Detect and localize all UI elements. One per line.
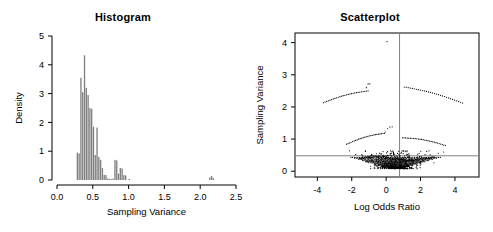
scatter-point bbox=[381, 162, 382, 163]
scatter-point bbox=[391, 155, 392, 156]
scatter-point bbox=[448, 97, 449, 98]
scatter-point bbox=[434, 156, 435, 157]
scatter-point bbox=[362, 157, 363, 158]
scatter-point bbox=[405, 161, 406, 162]
scatter-point bbox=[392, 162, 393, 163]
scatter-point bbox=[382, 161, 383, 162]
scatter-point bbox=[391, 160, 392, 161]
scatter-point bbox=[401, 167, 402, 168]
scatter-point bbox=[416, 162, 417, 163]
scatter-point bbox=[416, 89, 417, 90]
histogram-bar bbox=[125, 175, 126, 180]
x-tick-label: 0.5 bbox=[87, 192, 100, 202]
scatter-point bbox=[446, 97, 447, 98]
scatter-point bbox=[414, 158, 415, 159]
scatter-point bbox=[408, 162, 409, 163]
scatter-point bbox=[379, 153, 380, 154]
scatter-point bbox=[420, 161, 421, 162]
scatter-point bbox=[380, 162, 381, 163]
scatter-point bbox=[368, 161, 369, 162]
scatter-point bbox=[384, 156, 385, 157]
scatter-point bbox=[387, 151, 388, 152]
scatter-point bbox=[382, 160, 383, 161]
scatter-point bbox=[388, 162, 389, 163]
scatter-point bbox=[363, 158, 364, 159]
scatter-point bbox=[396, 160, 397, 161]
scatter-point bbox=[364, 160, 365, 161]
x-axis-title: Log Odds Ratio bbox=[354, 201, 420, 212]
scatter-point bbox=[417, 165, 418, 166]
histogram-bar bbox=[102, 168, 103, 180]
scatter-point bbox=[421, 161, 422, 162]
scatter-point bbox=[398, 151, 399, 152]
scatter-point bbox=[378, 160, 379, 161]
histogram-y-axis: 012345 bbox=[39, 31, 52, 185]
scatter-point bbox=[344, 95, 345, 96]
scatter-point bbox=[380, 168, 381, 169]
scatter-point bbox=[371, 159, 372, 160]
scatter-point bbox=[402, 150, 403, 151]
scatter-point bbox=[409, 157, 410, 158]
scatter-point bbox=[379, 161, 380, 162]
scatter-point bbox=[377, 162, 378, 163]
scatter-point bbox=[431, 159, 432, 160]
scatter-point bbox=[419, 157, 420, 158]
scatter-point bbox=[390, 155, 391, 156]
scatter-point bbox=[361, 157, 362, 158]
scatter-point bbox=[373, 158, 374, 159]
scatter-point bbox=[404, 155, 405, 156]
scatter-point bbox=[417, 163, 418, 164]
scatter-point bbox=[323, 102, 324, 103]
scatter-point bbox=[462, 102, 463, 103]
scatter-point bbox=[442, 95, 443, 96]
scatter-point bbox=[403, 150, 404, 151]
histogram-panel: Histogram 0123450.00.51.01.52.02.5Sampli… bbox=[0, 0, 246, 232]
y-axis-title: Density bbox=[13, 92, 24, 124]
scatter-point bbox=[380, 160, 381, 161]
histogram-bar bbox=[105, 175, 106, 180]
scatter-point bbox=[411, 162, 412, 163]
scatter-point bbox=[346, 94, 347, 95]
scatter-point bbox=[366, 87, 367, 88]
scatter-point bbox=[369, 135, 370, 136]
scatter-point bbox=[324, 101, 325, 102]
scatter-point bbox=[393, 157, 394, 158]
scatter-point bbox=[402, 137, 403, 138]
scatter-point bbox=[361, 154, 362, 155]
scatter-point bbox=[424, 159, 425, 160]
scatter-point bbox=[385, 160, 386, 161]
scatter-point bbox=[371, 160, 372, 161]
scatter-point bbox=[329, 100, 330, 101]
scatter-point bbox=[367, 90, 368, 91]
scatter-point bbox=[363, 137, 364, 138]
scatter-point bbox=[385, 155, 386, 156]
scatter-point bbox=[387, 128, 388, 129]
histogram-bar bbox=[121, 168, 122, 180]
histogram-bar bbox=[95, 155, 96, 180]
scatter-point bbox=[370, 161, 371, 162]
scatter-point bbox=[352, 157, 353, 158]
y-tick-label: 3 bbox=[282, 70, 287, 80]
scatterplot-y-axis: 01234 bbox=[282, 38, 295, 177]
scatter-point bbox=[387, 162, 388, 163]
scatter-point bbox=[366, 90, 367, 91]
scatter-point bbox=[434, 158, 435, 159]
scatter-point bbox=[364, 159, 365, 160]
scatter-point bbox=[411, 168, 412, 169]
scatter-point bbox=[375, 162, 376, 163]
scatter-point bbox=[411, 157, 412, 158]
scatter-point bbox=[404, 86, 405, 87]
scatter-point bbox=[354, 92, 355, 93]
scatter-point bbox=[374, 161, 375, 162]
scatter-point bbox=[347, 143, 348, 144]
scatter-point bbox=[370, 168, 371, 169]
y-tick-label: 0 bbox=[282, 166, 287, 176]
scatter-point bbox=[392, 126, 393, 127]
scatter-point bbox=[440, 157, 441, 158]
scatter-point bbox=[398, 162, 399, 163]
scatter-point bbox=[349, 150, 350, 151]
scatter-point bbox=[428, 160, 429, 161]
scatter-point bbox=[363, 160, 364, 161]
scatter-point bbox=[405, 166, 406, 167]
scatter-point bbox=[422, 159, 423, 160]
